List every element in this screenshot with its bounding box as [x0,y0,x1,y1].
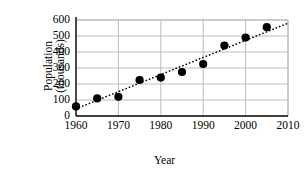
x-tick-label: 1990 [192,120,215,132]
x-axis-title-text: Year [154,154,175,166]
population-scatter-chart: Population (thousands) 01002003004005006… [0,0,305,182]
x-tick-label: 1980 [149,120,172,132]
x-tick-label: 1970 [107,120,130,132]
x-tick-label: 1960 [65,120,88,132]
x-tick-label: 2010 [277,120,300,132]
x-axis-title: Year [0,155,305,167]
x-tick-label: 2000 [234,120,257,132]
